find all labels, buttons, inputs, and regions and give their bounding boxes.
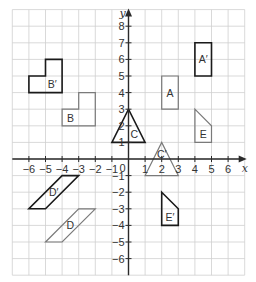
x-tick-label: −5 [39, 163, 52, 175]
label-d: D [67, 219, 75, 231]
x-axis-label: x [242, 162, 249, 175]
label-d-prime: D′ [49, 186, 59, 198]
coordinate-plane: x y 0 −6−5−4−3−2−1123456−6−5−4−3−2−11234… [0, 0, 256, 282]
y-tick-label: 6 [118, 53, 124, 65]
y-axis-label: y [119, 7, 127, 20]
y-tick-label: −3 [112, 203, 125, 215]
y-tick-label: −2 [112, 186, 125, 198]
label-e-prime: E′ [166, 211, 175, 223]
x-tick-label: 2 [159, 163, 165, 175]
y-tick-label: 7 [118, 37, 124, 49]
y-tick-label: 1 [118, 136, 124, 148]
y-tick-label: 3 [118, 103, 124, 115]
label-a: A [166, 87, 173, 99]
x-tick-label: −4 [56, 163, 69, 175]
axes: x y 0 [12, 7, 248, 276]
x-tick-label: 1 [142, 163, 148, 175]
x-tick-label: 6 [225, 163, 231, 175]
label-c-prime: C′ [157, 148, 167, 160]
y-tick-label: −6 [112, 253, 125, 265]
label-e: E [200, 128, 207, 140]
label-c: C [131, 128, 139, 140]
x-tick-label: −6 [23, 163, 36, 175]
x-tick-label: 3 [175, 163, 181, 175]
y-tick-label: 8 [118, 20, 124, 32]
label-b: B [67, 112, 74, 124]
x-tick-label: −3 [72, 163, 85, 175]
y-tick-label: 5 [118, 70, 124, 82]
y-tick-label: −4 [112, 219, 125, 231]
y-tick-label: 4 [118, 87, 124, 99]
coordinate-grid-diagram: x y 0 −6−5−4−3−2−1123456−6−5−4−3−2−11234… [0, 0, 256, 282]
y-tick-label: −1 [112, 170, 125, 182]
label-b-prime: B′ [48, 78, 57, 90]
x-tick-label: −2 [89, 163, 102, 175]
x-tick-label: 4 [192, 163, 198, 175]
y-tick-label: 2 [118, 120, 124, 132]
x-tick-label: 5 [208, 163, 214, 175]
label-a-prime: A′ [199, 53, 208, 65]
y-tick-label: −5 [112, 236, 125, 248]
